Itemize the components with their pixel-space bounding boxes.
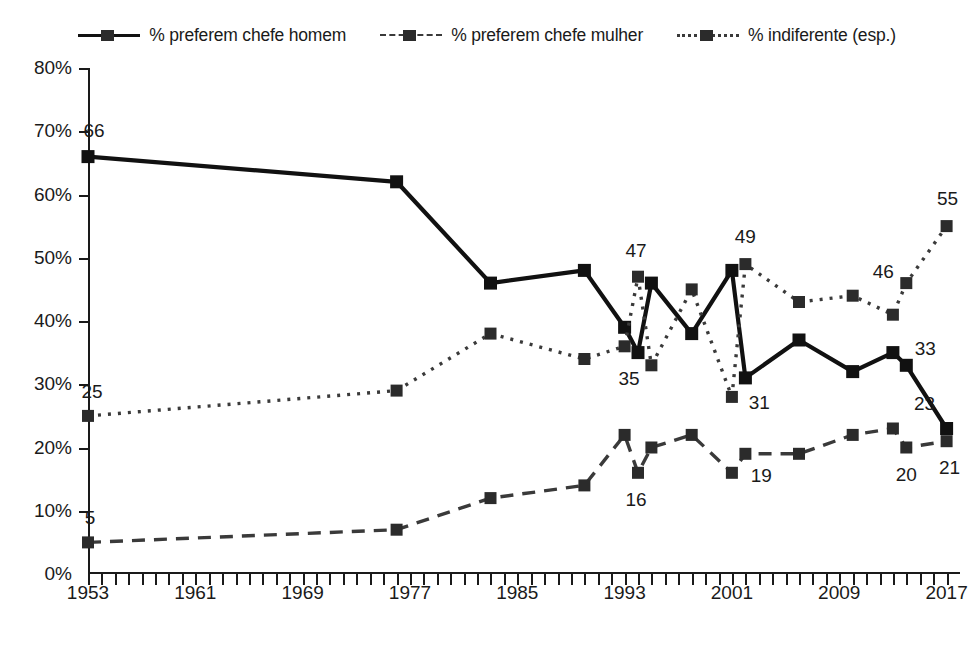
y-axis-labels: 0%10%20%30%40%50%60%70%80% <box>0 68 88 574</box>
data-point-label: 66 <box>83 120 104 142</box>
data-point-marker <box>686 283 698 295</box>
legend-item-homem: % preferem chefe homem <box>78 25 346 46</box>
data-point-marker <box>900 442 912 454</box>
data-point-label: 19 <box>751 465 772 487</box>
data-point-label: 5 <box>85 507 96 529</box>
legend-key-solid-square-icon <box>78 28 140 42</box>
y-axis-tick-label: 50% <box>34 247 72 269</box>
data-point-marker <box>82 150 95 163</box>
legend-label-indiferente: % indiferente (esp.) <box>748 25 896 46</box>
y-axis-tick-label: 70% <box>34 120 72 142</box>
data-point-marker <box>632 271 644 283</box>
data-point-label: 47 <box>625 240 646 262</box>
data-point-label: 21 <box>939 457 960 479</box>
data-point-label: 33 <box>915 338 936 360</box>
data-point-marker <box>632 467 644 479</box>
data-point-label: 55 <box>937 188 958 210</box>
series-line-2 <box>88 226 947 416</box>
x-axis-tick-label: 2009 <box>818 582 860 604</box>
x-axis-tick-label: 1977 <box>389 582 431 604</box>
data-point-marker <box>793 296 805 308</box>
data-point-marker <box>619 429 631 441</box>
data-point-marker <box>846 365 859 378</box>
data-point-marker <box>941 220 953 232</box>
data-point-marker <box>725 264 738 277</box>
y-axis-tick <box>79 195 88 197</box>
x-axis-tick-label: 1953 <box>67 582 109 604</box>
data-point-label: 23 <box>914 393 935 415</box>
y-axis-tick <box>79 258 88 260</box>
legend-item-mulher: % preferem chefe mulher <box>380 25 643 46</box>
x-axis-labels: 195319611969197719851993200120092017 <box>88 582 960 612</box>
data-point-label: 20 <box>896 464 917 486</box>
data-point-marker <box>619 340 631 352</box>
data-point-label: 49 <box>735 226 756 248</box>
data-point-marker <box>847 429 859 441</box>
data-point-marker <box>726 391 738 403</box>
data-point-marker <box>390 175 403 188</box>
data-point-marker <box>685 327 698 340</box>
x-axis-tick-label: 2017 <box>925 582 967 604</box>
series-line-0 <box>88 157 947 429</box>
y-axis-tick-label: 10% <box>34 500 72 522</box>
data-point-marker <box>645 359 657 371</box>
series-plot <box>88 68 960 574</box>
data-point-marker <box>82 536 94 548</box>
data-point-marker <box>887 423 899 435</box>
data-point-label: 35 <box>618 368 639 390</box>
y-axis-tick-label: 30% <box>34 373 72 395</box>
data-point-marker <box>739 371 752 384</box>
data-point-marker <box>578 479 590 491</box>
data-point-marker <box>793 448 805 460</box>
data-point-marker <box>739 258 751 270</box>
data-point-marker <box>726 467 738 479</box>
data-point-marker <box>941 435 953 447</box>
legend-label-mulher: % preferem chefe mulher <box>451 25 643 46</box>
data-point-marker <box>485 328 497 340</box>
data-point-marker <box>793 334 806 347</box>
x-axis-tick-label: 1961 <box>174 582 216 604</box>
data-point-marker <box>900 359 913 372</box>
data-point-marker <box>82 410 94 422</box>
data-point-marker <box>578 353 590 365</box>
legend-key-dotted-square-icon <box>677 28 739 42</box>
x-axis-tick-label: 1985 <box>496 582 538 604</box>
data-point-marker <box>391 524 403 536</box>
legend-label-homem: % preferem chefe homem <box>149 25 346 46</box>
data-point-marker <box>886 346 899 359</box>
y-axis-tick-label: 20% <box>34 437 72 459</box>
x-axis-tick-label: 2001 <box>711 582 753 604</box>
data-point-label: 25 <box>81 381 102 403</box>
plot-area: 66255473549311619463355202123 <box>88 68 960 574</box>
data-point-label: 31 <box>749 392 770 414</box>
chart-container: % preferem chefe homem % preferem chefe … <box>0 0 974 666</box>
chart-legend: % preferem chefe homem % preferem chefe … <box>0 18 974 52</box>
data-point-marker <box>632 346 645 359</box>
x-axis-tick-label: 1969 <box>282 582 324 604</box>
data-point-marker <box>739 448 751 460</box>
data-point-marker <box>578 264 591 277</box>
data-point-marker <box>847 290 859 302</box>
x-axis-tick-label: 1993 <box>603 582 645 604</box>
data-point-marker <box>485 492 497 504</box>
data-point-label: 46 <box>873 261 894 283</box>
data-point-marker <box>686 429 698 441</box>
data-point-marker <box>900 277 912 289</box>
y-axis-tick-label: 40% <box>34 310 72 332</box>
data-point-marker <box>645 277 658 290</box>
data-point-label: 16 <box>625 489 646 511</box>
data-point-marker <box>887 309 899 321</box>
data-point-marker <box>645 442 657 454</box>
y-axis-tick-label: 60% <box>34 184 72 206</box>
series-line-1 <box>88 429 947 543</box>
legend-key-dashed-square-icon <box>380 28 442 42</box>
y-axis-tick <box>79 321 88 323</box>
data-point-marker <box>940 422 953 435</box>
legend-item-indiferente: % indiferente (esp.) <box>677 25 896 46</box>
y-axis-tick-label: 80% <box>34 57 72 79</box>
y-axis-tick <box>79 448 88 450</box>
data-point-marker <box>391 385 403 397</box>
y-axis-tick <box>79 68 88 70</box>
data-point-marker <box>484 277 497 290</box>
